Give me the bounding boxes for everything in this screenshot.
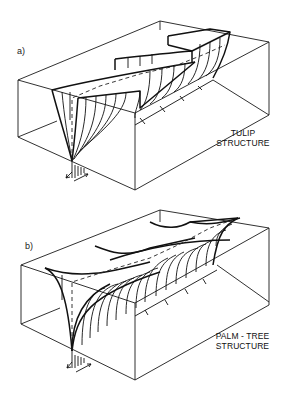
caption-b-line1: PALM - TREE <box>205 331 280 341</box>
panel-b-caption: PALM - TREE STRUCTURE <box>205 331 280 351</box>
fault-structure-figure: a) <box>0 0 286 393</box>
caption-b-line2: STRUCTURE <box>205 341 280 351</box>
strike-slip-arrows-b <box>67 351 91 372</box>
